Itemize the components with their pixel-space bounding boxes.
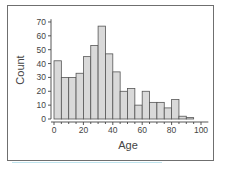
histogram-bar [128,89,135,119]
histogram-bar [120,91,127,119]
histogram-bar [61,77,68,119]
histogram-bar [83,57,90,119]
x-tick-label: 80 [167,125,177,135]
y-axis-label: Count [14,55,26,84]
histogram-bar [179,116,186,119]
y-tick-label: 30 [37,72,47,82]
x-tick-label: 40 [108,125,118,135]
x-tick-label: 0 [52,125,57,135]
histogram-bar [105,54,112,119]
histogram-bar [172,100,179,119]
histogram-bar [164,108,171,119]
histogram-bar [76,73,83,119]
y-tick-label: 70 [37,17,47,27]
x-tick-label: 20 [79,125,89,135]
y-tick-label: 20 [37,86,47,96]
x-tick-label: 60 [137,125,147,135]
y-tick-label: 60 [37,31,47,41]
x-axis-label: Age [118,139,138,151]
y-tick-label: 10 [37,100,47,110]
y-tick-label: 50 [37,45,47,55]
y-tick-label: 0 [41,114,46,124]
histogram-bar [150,102,157,119]
y-tick-label: 40 [37,59,47,69]
histogram-bar [91,46,98,119]
histogram-bar [142,91,149,119]
histogram-bar [135,105,142,119]
histogram-bar [54,61,61,119]
histogram-bars [54,26,194,119]
x-tick-label: 100 [194,125,208,135]
histogram-bar [98,26,105,119]
histogram-bar [186,118,193,119]
histogram-bar [157,102,164,119]
histogram-bar [113,72,120,119]
histogram-bar [69,77,76,119]
histogram-chart: 010203040506070020406080100 Age Count [0,0,229,171]
